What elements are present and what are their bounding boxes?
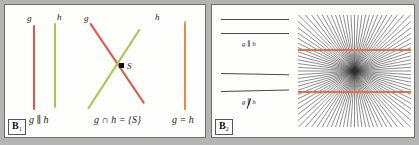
label-point-s: S [127,62,132,71]
caption-parallel-pair: g ∥ h [242,41,256,48]
label-g-intersecting: g [84,14,89,23]
panel-tag-b2: B2 [215,119,233,135]
caption-nonparallel-h: h [252,98,256,106]
figure-root: g h g ∥ h g h S g ∩ h = {S} g = h B1 [0,0,419,145]
hering-illusion [298,15,411,127]
label-h-intersecting: h [155,13,160,22]
caption-parallel-symbol: ∥ [247,40,250,48]
panel-tag-b1-letter: B [12,120,19,131]
panel-tag-b2-letter: B [219,120,226,131]
line-g-parallel [33,25,35,110]
panel-tag-b2-index: 2 [226,126,229,132]
caption-parallel-g: g [242,40,246,48]
line-g-coincident [184,24,186,110]
hering-overlay-line-top [298,49,411,51]
hering-overlay-line-bottom [298,91,411,93]
label-g-parallel: g [27,14,32,23]
line-h-intersecting [87,29,140,110]
caption-parallel: g ∥ h [29,115,49,125]
caption-coincident: g = h [172,115,194,125]
b2-line-examples: g ∥ h g ∥ h [218,11,294,131]
gray-line-1 [221,19,289,20]
intersection-point-marker [119,63,124,68]
radial-fan-pattern [298,15,411,127]
gray-line-3 [221,73,289,75]
line-h-parallel [54,23,56,108]
panel-tag-b1-index: 1 [19,126,22,132]
caption-parallel-h: h [252,40,256,48]
gray-line-4 [221,89,289,92]
panel-tag-b1: B1 [8,119,26,135]
caption-intersecting: g ∩ h = {S} [94,115,141,125]
gray-line-2 [221,33,289,34]
caption-nonparallel-pair: g ∥ h [242,99,256,106]
label-h-parallel: h [57,13,62,22]
panel-b2: g ∥ h g ∥ h B2 [211,4,415,138]
not-parallel-icon: ∥ [247,99,250,106]
panel-b1: g h g ∥ h g h S g ∩ h = {S} g = h B1 [4,4,206,138]
caption-nonparallel-g: g [242,98,246,106]
